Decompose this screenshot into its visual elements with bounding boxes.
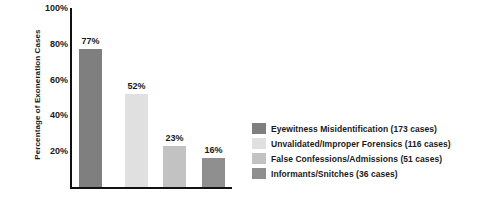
plot-area: 77%52%23%16% (72, 8, 232, 187)
bar (125, 94, 148, 187)
legend-swatch (252, 168, 266, 179)
legend-label: False Confessions/Admissions (51 cases) (271, 154, 442, 164)
legend-label: Unvalidated/Improper Forensics (116 case… (271, 139, 451, 149)
legend-label: Informants/Snitches (36 cases) (271, 169, 398, 179)
y-axis-tick-100: 100% (38, 3, 68, 13)
bar-chart: Percentage of Exoneration Cases 100%80%6… (0, 0, 488, 210)
y-axis-tick-80: 80% (38, 39, 68, 49)
legend-label: Eyewitness Misidentification (173 cases) (271, 124, 437, 134)
bar-value-label: 52% (114, 81, 160, 91)
legend-swatch (252, 138, 266, 149)
bar-value-label: 77% (68, 36, 114, 46)
legend-swatch (252, 153, 266, 164)
bar-value-label: 16% (191, 145, 237, 155)
legend-item: False Confessions/Admissions (51 cases) (252, 151, 451, 166)
legend-swatch (252, 123, 266, 134)
bar (163, 146, 186, 187)
legend-item: Eyewitness Misidentification (173 cases) (252, 121, 451, 136)
chart-legend: Eyewitness Misidentification (173 cases)… (252, 121, 451, 181)
legend-item: Unvalidated/Improper Forensics (116 case… (252, 136, 451, 151)
y-axis-tick-labels: 100%80%60%40%20% (34, 0, 68, 210)
bar (202, 158, 225, 187)
bar-value-label: 23% (152, 133, 198, 143)
bar (79, 49, 102, 187)
y-axis-tick-60: 60% (38, 75, 68, 85)
y-axis-tick-40: 40% (38, 110, 68, 120)
legend-item: Informants/Snitches (36 cases) (252, 166, 451, 181)
y-axis-tick-20: 20% (38, 146, 68, 156)
x-axis-line (70, 187, 232, 189)
